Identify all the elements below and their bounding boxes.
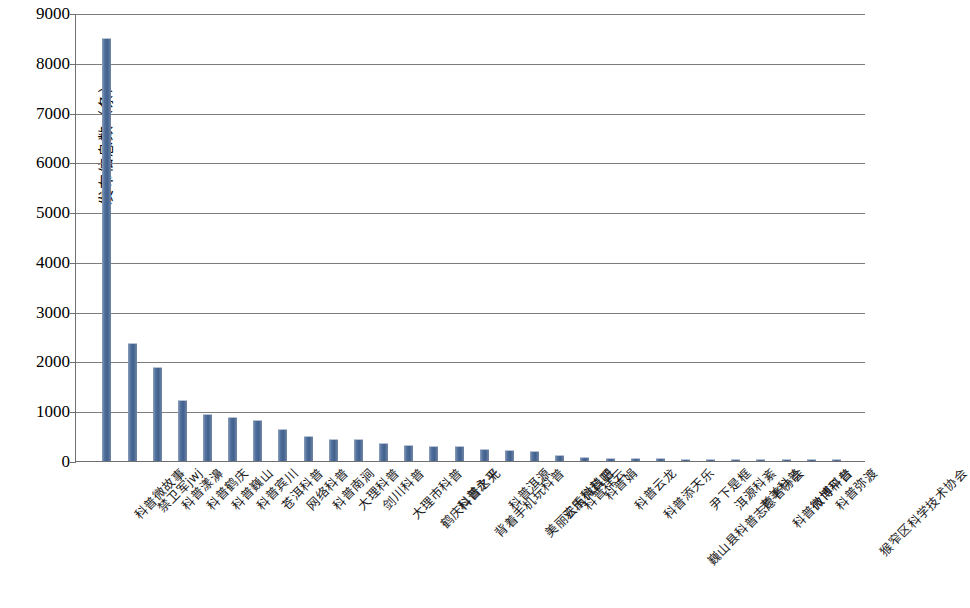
y-axis-tick-label: 9000 (36, 5, 70, 22)
y-axis-tick-label: 2000 (36, 353, 70, 370)
bar (731, 459, 740, 461)
y-axis-tick-label: 7000 (36, 105, 70, 122)
y-axis-tick-label: 6000 (36, 154, 70, 171)
bar (329, 439, 338, 461)
bar (203, 414, 212, 461)
bar (606, 458, 615, 461)
bar (756, 459, 765, 461)
bar (656, 458, 665, 461)
y-axis-tick-label: 3000 (36, 304, 70, 321)
bar (278, 429, 287, 461)
y-axis-tick-label: 1000 (36, 403, 70, 420)
bar (429, 446, 438, 461)
bar (128, 343, 137, 461)
bar (555, 455, 564, 461)
y-axis-tick-label: 8000 (36, 55, 70, 72)
bar (379, 443, 388, 461)
x-axis-tick-label: 猴窄区科学技术协会 (877, 466, 969, 558)
bar (631, 458, 640, 461)
x-axis-tick-labels: 科普微故事禁卫军jwj科普漾濞科普鹤庆科普巍山科普宾川苍洱科普网络科普科普南涧大… (75, 464, 865, 608)
bar (354, 439, 363, 461)
bar (102, 38, 111, 461)
bar (228, 417, 237, 461)
plot-area (75, 14, 865, 462)
bar (681, 459, 690, 461)
bar-series (76, 14, 865, 461)
y-axis-tick (70, 462, 76, 463)
y-axis-tick-labels: 0100020003000400050006000700080009000 (0, 14, 70, 462)
bar (505, 450, 514, 461)
y-axis-tick-label: 5000 (36, 204, 70, 221)
bar (580, 457, 589, 461)
bar (404, 445, 413, 461)
bar (178, 400, 187, 461)
bar (153, 367, 162, 461)
bar (480, 449, 489, 461)
y-axis-tick-label: 0 (62, 453, 71, 470)
bar (807, 459, 816, 461)
bar (455, 446, 464, 461)
bar (304, 436, 313, 461)
bar (782, 459, 791, 461)
bar (253, 420, 262, 461)
y-axis-tick-label: 4000 (36, 254, 70, 271)
bar (530, 451, 539, 461)
bar (706, 459, 715, 461)
bar (832, 459, 841, 461)
